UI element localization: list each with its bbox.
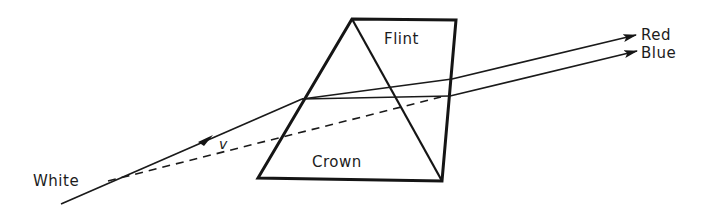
prism-diagram: White v Flint Crown Red Blue bbox=[0, 0, 714, 217]
label-white: White bbox=[33, 172, 79, 190]
red-ray-emergent bbox=[452, 35, 636, 79]
label-blue: Blue bbox=[641, 44, 676, 62]
incident-arrow-icon bbox=[198, 135, 213, 146]
label-flint: Flint bbox=[384, 30, 419, 48]
label-red: Red bbox=[641, 26, 671, 44]
undeviated-path bbox=[108, 97, 441, 181]
label-velocity: v bbox=[219, 136, 228, 152]
incident-ray bbox=[61, 99, 302, 204]
label-crown: Crown bbox=[312, 153, 362, 171]
